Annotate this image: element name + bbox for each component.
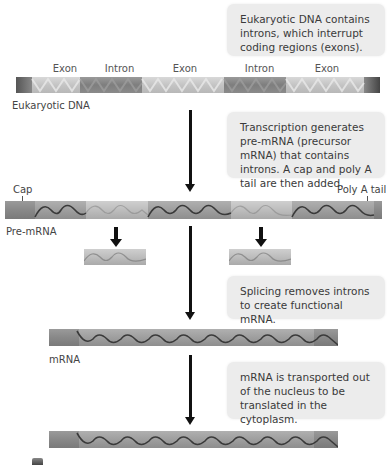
callout-transcription: Transcription generates pre-mRNA (precur…: [227, 112, 385, 178]
label-cap: Cap: [13, 184, 32, 195]
intron-1-wave: [84, 249, 146, 265]
arrow-intron-1-removed: [114, 227, 118, 240]
mrna-wave: [49, 329, 338, 346]
label-pre-mrna: Pre-mRNA: [6, 226, 57, 237]
callout-splicing: Splicing removes introns to create funct…: [227, 276, 385, 319]
intron-2-wave: [229, 249, 291, 265]
label-mrna: mRNA: [49, 354, 80, 365]
removed-intron-2: [229, 249, 291, 265]
pre-mrna-strand: [5, 201, 382, 219]
arrow-splicing: [189, 226, 192, 313]
callout-dna: Eukaryotic DNA contains introns, which i…: [227, 4, 385, 56]
label-intron-2: Intron: [232, 63, 287, 74]
label-exon-1: Exon: [40, 63, 90, 74]
removed-intron-1: [84, 249, 146, 265]
label-poly-a-tail: Poly A tail: [337, 184, 386, 195]
arrow-intron-2-removed: [259, 227, 263, 240]
mrna-strand-cytoplasm: [49, 431, 338, 448]
arrow-transport: [189, 355, 192, 418]
mrna-strand: [49, 329, 338, 346]
label-exon-2: Exon: [160, 63, 210, 74]
media-icon[interactable]: [32, 458, 43, 465]
dna-helix-pattern: [16, 77, 380, 93]
pre-mrna-wave: [5, 201, 382, 219]
mrna-cytoplasm-wave: [49, 431, 338, 448]
label-intron-1: Intron: [92, 63, 147, 74]
dna-strand: [16, 77, 380, 93]
label-exon-3: Exon: [302, 63, 352, 74]
arrow-transcription: [189, 110, 192, 185]
label-eukaryotic-dna: Eukaryotic DNA: [12, 100, 90, 111]
callout-transport: mRNA is transported out of the nucleus t…: [227, 362, 385, 419]
